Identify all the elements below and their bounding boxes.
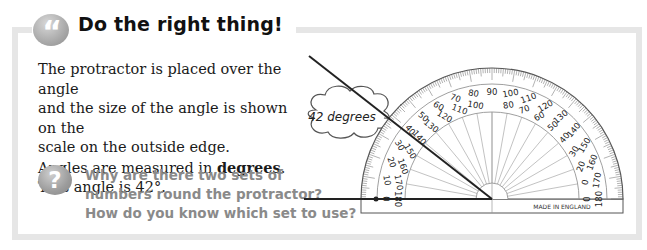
svg-text:80: 80 (467, 87, 479, 99)
svg-text:MADE IN ENGLAND: MADE IN ENGLAND (533, 203, 591, 210)
svg-text:0: 0 (582, 196, 592, 201)
svg-text:180: 180 (594, 191, 604, 207)
svg-text:80: 80 (502, 99, 514, 111)
protractor: 0102030405060708090100110120130140150160… (361, 68, 623, 213)
svg-text:90: 90 (487, 87, 498, 97)
base-endpoint-dot (374, 197, 379, 202)
protractor-diagram: 0102030405060708090100110120130140150160… (0, 0, 647, 250)
callout-label: 42 degrees (300, 110, 384, 124)
svg-text:10: 10 (381, 174, 393, 186)
